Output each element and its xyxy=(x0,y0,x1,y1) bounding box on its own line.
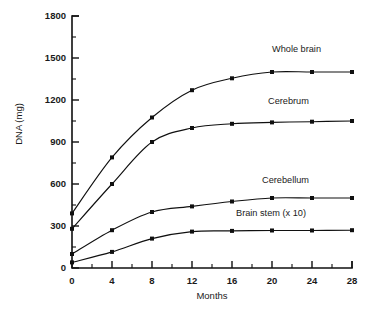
x-tick-label: 16 xyxy=(227,275,238,286)
data-point-marker xyxy=(190,88,194,92)
axis-titles-group: MonthsDNA (mg) xyxy=(13,103,228,301)
y-tick-label: 900 xyxy=(50,136,66,147)
y-tick-label: 1800 xyxy=(45,10,66,21)
data-point-marker xyxy=(270,228,274,232)
data-point-marker xyxy=(230,122,234,126)
data-curve xyxy=(72,72,352,214)
series-labels-group: Whole brainCerebrumCerebellumBrain stem … xyxy=(236,44,321,217)
x-tick-label: 12 xyxy=(187,275,198,286)
data-point-marker xyxy=(190,204,194,208)
data-point-marker xyxy=(310,196,314,200)
data-point-marker xyxy=(310,228,314,232)
data-point-marker xyxy=(150,116,154,120)
data-point-marker xyxy=(270,70,274,74)
data-point-marker xyxy=(190,126,194,130)
x-tick-label: 4 xyxy=(109,275,115,286)
x-axis-title: Months xyxy=(196,290,227,301)
y-tick-label: 600 xyxy=(50,178,66,189)
data-point-marker xyxy=(270,196,274,200)
data-point-marker xyxy=(110,228,114,232)
data-point-marker xyxy=(70,252,74,256)
series-label: Whole brain xyxy=(272,44,321,54)
data-point-marker xyxy=(190,230,194,234)
data-point-marker xyxy=(350,119,354,123)
x-tick-label: 24 xyxy=(307,275,318,286)
data-point-marker xyxy=(70,227,74,231)
x-tick-label: 8 xyxy=(149,275,154,286)
data-point-marker xyxy=(350,196,354,200)
y-tick-label: 300 xyxy=(50,220,66,231)
data-markers-group xyxy=(70,70,354,264)
y-tick-label: 0 xyxy=(61,262,66,273)
data-point-marker xyxy=(150,140,154,144)
series-label: Brain stem (x 10) xyxy=(236,208,306,218)
dna-growth-chart: 03006009001200150018000481216202428 Whol… xyxy=(0,0,368,311)
data-point-marker xyxy=(350,70,354,74)
series-label: Cerebrum xyxy=(268,96,309,106)
data-point-marker xyxy=(110,250,114,254)
x-tick-label: 28 xyxy=(347,275,358,286)
data-point-marker xyxy=(150,210,154,214)
chart-canvas: 03006009001200150018000481216202428 Whol… xyxy=(0,0,368,311)
data-point-marker xyxy=(110,182,114,186)
data-point-marker xyxy=(150,237,154,241)
y-tick-label: 1200 xyxy=(45,94,66,105)
y-axis-title: DNA (mg) xyxy=(13,103,24,145)
data-point-marker xyxy=(230,76,234,80)
data-curve xyxy=(72,121,352,229)
data-point-marker xyxy=(350,228,354,232)
data-point-marker xyxy=(70,211,74,215)
series-label: Cerebellum xyxy=(262,175,309,185)
x-tick-label: 20 xyxy=(267,275,278,286)
x-tick-label: 0 xyxy=(69,275,74,286)
data-point-marker xyxy=(310,70,314,74)
data-point-marker xyxy=(70,260,74,264)
data-point-marker xyxy=(230,229,234,233)
y-tick-label: 1500 xyxy=(45,52,66,63)
data-point-marker xyxy=(310,120,314,124)
data-point-marker xyxy=(110,155,114,159)
data-curves-group xyxy=(72,72,352,263)
data-curve xyxy=(72,198,352,254)
data-curve xyxy=(72,230,352,262)
data-point-marker xyxy=(270,120,274,124)
data-point-marker xyxy=(230,200,234,204)
